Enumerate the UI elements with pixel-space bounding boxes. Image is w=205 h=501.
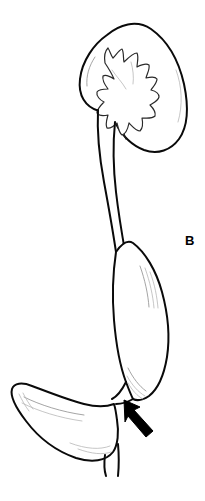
figure-panel-b: B [0,0,205,501]
narrowed-segment-lower-edge [112,382,126,399]
dilated-distal-ureter-outline [113,242,168,400]
anatomy-line-drawing [0,0,205,501]
urinary-bladder-outline [12,384,118,461]
narrowing-arrow [124,400,153,437]
urethra-right-wall [118,444,119,476]
proximal-ureter-right-wall [114,122,126,257]
panel-label: B [185,234,195,247]
